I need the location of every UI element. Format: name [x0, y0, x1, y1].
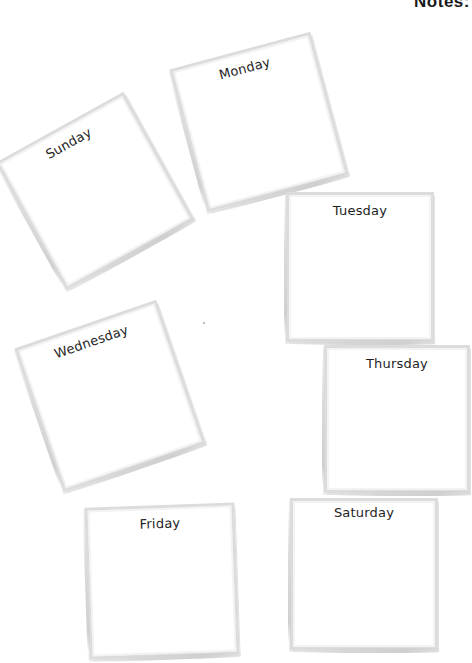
notes-heading: Notes:: [414, 0, 470, 12]
stray-dot-mark: [203, 322, 205, 324]
day-label-wednesday: Wednesday: [21, 311, 162, 372]
day-frame-sunday[interactable]: Sunday: [0, 92, 194, 290]
day-frame-thursday[interactable]: Thursday: [324, 345, 470, 493]
day-frame-saturday[interactable]: Saturday: [290, 498, 438, 650]
day-label-thursday: Thursday: [327, 356, 467, 371]
day-label-tuesday: Tuesday: [289, 203, 431, 218]
day-frame-wednesday[interactable]: Wednesday: [14, 300, 205, 493]
day-label-saturday: Saturday: [293, 505, 435, 520]
day-frame-tuesday[interactable]: Tuesday: [286, 192, 434, 342]
day-label-monday: Monday: [175, 43, 314, 94]
day-label-sunday: Sunday: [4, 103, 134, 184]
day-label-friday: Friday: [88, 514, 232, 534]
day-frame-monday[interactable]: Monday: [169, 32, 348, 213]
day-frame-friday[interactable]: Friday: [84, 502, 239, 659]
